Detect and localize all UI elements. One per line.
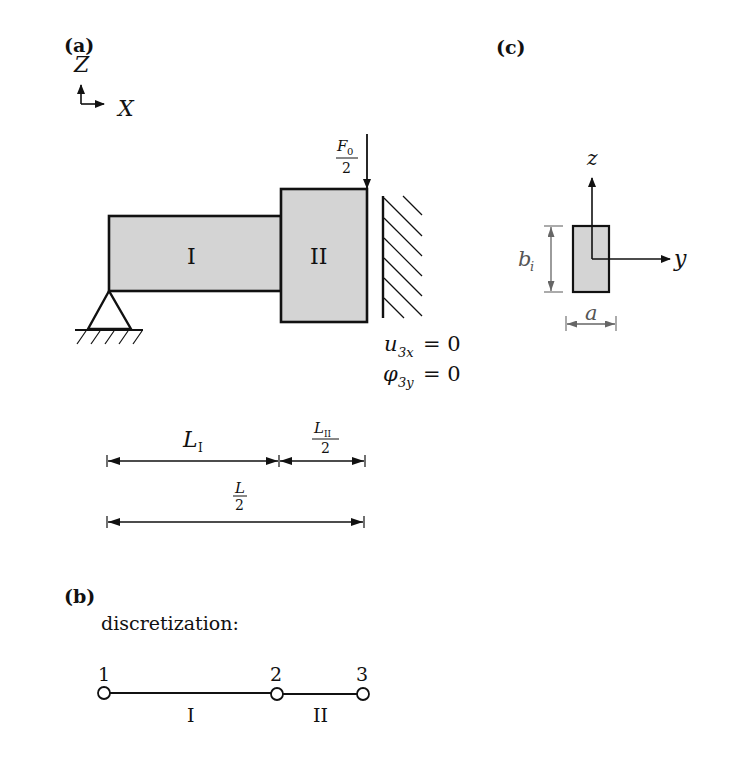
node-2-icon	[271, 688, 283, 700]
segment-i-label: I	[187, 244, 196, 269]
dim-l-num: L	[234, 479, 245, 497]
fixed-wall-icon	[383, 196, 422, 318]
height-label-sub: i	[530, 259, 534, 274]
segment-ii-label: II	[310, 244, 327, 269]
figure: (a) Z X I II	[0, 0, 729, 757]
dim-l2-den: 2	[321, 440, 330, 456]
dim-l1-main: L	[182, 427, 198, 452]
bc2-rhs: = 0	[423, 362, 461, 386]
discretization-caption: discretization:	[101, 612, 239, 634]
panel-c-label: (c)	[496, 36, 526, 58]
bc2-var: φ	[383, 362, 398, 386]
axis-z-label: Z	[73, 52, 90, 77]
axis-x-label: X	[116, 96, 135, 121]
pin-support-icon	[75, 291, 143, 344]
element-ii-label: II	[313, 704, 328, 726]
load-num-sub: 0	[347, 146, 353, 157]
load-den: 2	[342, 160, 351, 176]
bc1-rhs: = 0	[423, 332, 461, 356]
node-3-label: 3	[356, 663, 368, 685]
bc1-var: u	[384, 332, 398, 356]
dim-l1-sub: I	[198, 441, 203, 455]
load-label: F 0 2	[336, 137, 358, 176]
dim-l2-num: L	[313, 419, 324, 437]
panel-b: (b) discretization: 1 2 3 I II	[64, 585, 369, 726]
dim-l2-num-sub: II	[324, 429, 332, 439]
node-3-icon	[357, 688, 369, 700]
section-axis-z-label: z	[586, 146, 598, 170]
node-2-label: 2	[270, 663, 282, 685]
width-label: a	[585, 301, 598, 325]
element-i-label: I	[187, 704, 195, 726]
svg-text:u: u	[384, 332, 398, 356]
panel-b-label: (b)	[64, 585, 95, 607]
panel-a: (a) Z X I II	[64, 34, 461, 528]
bc2-sub: 3y	[398, 375, 414, 390]
boundary-conditions: u 3x = 0 φ 3y = 0	[383, 332, 461, 390]
node-1-icon	[98, 687, 110, 699]
global-axes-icon: Z X	[73, 52, 135, 121]
height-dimension	[544, 226, 563, 292]
node-1-label: 1	[98, 663, 110, 685]
bc1-sub: 3x	[398, 345, 414, 360]
dim-l-den: 2	[235, 497, 244, 513]
section-axis-y-label: y	[673, 246, 687, 271]
dimension-lines: L I L II 2 L 2	[107, 419, 365, 528]
panel-c: (c) z y b i a	[496, 36, 687, 331]
